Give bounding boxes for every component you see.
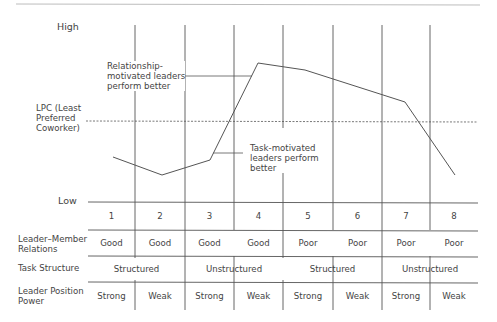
lmr-cell: Good bbox=[88, 238, 135, 248]
row-label-line: Power bbox=[18, 296, 84, 306]
y-axis-title-line: Preferred bbox=[36, 113, 81, 123]
row-label-line: Relations bbox=[18, 244, 87, 254]
lpp-cell: Strong bbox=[382, 291, 430, 301]
lmr-cell: Good bbox=[234, 238, 283, 248]
callout-line: motivated leaders bbox=[107, 71, 185, 81]
task-structure-label: Task Structure bbox=[18, 263, 79, 273]
lmr-cell: Poor bbox=[333, 238, 382, 248]
octant-cell: 3 bbox=[185, 211, 234, 221]
lmr-cell: Poor bbox=[382, 238, 430, 248]
octant-cell: 4 bbox=[234, 211, 283, 221]
lmr-cell: Poor bbox=[430, 238, 478, 248]
octant-cell: 6 bbox=[333, 211, 382, 221]
relationship-callout: Relationship- motivated leaders perform … bbox=[107, 61, 185, 91]
lpp-cell: Strong bbox=[88, 291, 135, 301]
octant-cell: 2 bbox=[135, 211, 185, 221]
y-axis-title: LPC (Least Preferred Coworker) bbox=[36, 103, 81, 133]
lpp-cell: Strong bbox=[283, 291, 333, 301]
lpp-cell: Weak bbox=[135, 291, 185, 301]
callout-line: perform better bbox=[107, 81, 185, 91]
leader-position-power-label: Leader Position Power bbox=[18, 286, 84, 306]
leader-member-relations-label: Leader–Member Relations bbox=[18, 234, 87, 254]
lpp-cell: Strong bbox=[185, 291, 234, 301]
callout-line: Relationship- bbox=[107, 61, 185, 71]
lmr-cell: Poor bbox=[283, 238, 333, 248]
y-axis-high-label: High bbox=[57, 22, 79, 32]
callout-line: Task-motivated bbox=[250, 143, 319, 153]
lpp-cell: Weak bbox=[333, 291, 382, 301]
lmr-cell: Good bbox=[185, 238, 234, 248]
row-label-line: Leader Position bbox=[18, 286, 84, 296]
octant-cell: 5 bbox=[283, 211, 333, 221]
y-axis-low-label: Low bbox=[58, 196, 77, 206]
task-callout: Task-motivated leaders perform better bbox=[250, 143, 319, 173]
task-structure-cell: Structured bbox=[88, 264, 185, 274]
lpp-cell: Weak bbox=[430, 291, 478, 301]
task-structure-cell: Unstructured bbox=[382, 264, 478, 274]
callout-line: better bbox=[250, 163, 319, 173]
lpp-cell: Weak bbox=[234, 291, 283, 301]
lmr-cell: Good bbox=[135, 238, 185, 248]
y-axis-title-line: LPC (Least bbox=[36, 103, 81, 113]
y-axis-title-line: Coworker) bbox=[36, 123, 81, 133]
octant-cell: 8 bbox=[430, 211, 478, 221]
octant-cell: 7 bbox=[382, 211, 430, 221]
octant-cell: 1 bbox=[88, 211, 135, 221]
callout-line: leaders perform bbox=[250, 153, 319, 163]
task-structure-cell: Unstructured bbox=[185, 264, 283, 274]
row-label-line: Leader–Member bbox=[18, 234, 87, 244]
task-structure-cell: Structured bbox=[283, 264, 382, 274]
